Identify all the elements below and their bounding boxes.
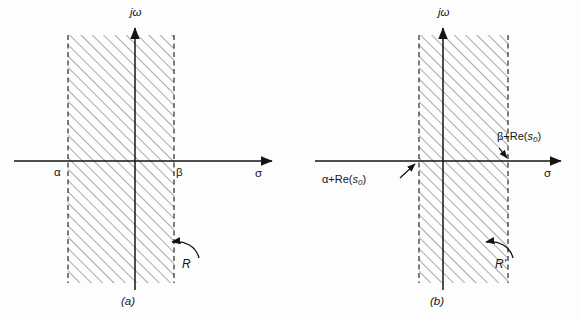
panel-b-caption: (b) [430, 296, 444, 308]
figure-root: jω σ α β R (a) jω σ α+Re(s0) β+Re(s0) R'… [0, 0, 579, 321]
region-b-hatch-fill [419, 35, 508, 283]
alpha-re-suffix: ) [362, 173, 366, 185]
region-a-hatch-fill [68, 35, 174, 283]
panel-b-beta-re-s0-label: β+Re(s0) [497, 131, 541, 144]
panel-b [315, 28, 561, 290]
region-a-pointer-arrow [172, 242, 199, 258]
panel-a-sigma-axis-label: σ [255, 168, 262, 180]
region-a-label-R: R [182, 258, 191, 270]
panel-a-beta-label: β [176, 167, 183, 179]
panel-b-sigma-axis-label: σ [544, 168, 551, 180]
beta-re-prefix: β+Re( [497, 130, 527, 142]
panel-a [14, 28, 272, 290]
panel-a-jomega-axis-label: jω [130, 7, 142, 19]
alpha-re-leader-line [400, 164, 415, 178]
panel-a-caption: (a) [121, 296, 135, 308]
beta-re-suffix: ) [537, 130, 541, 142]
panel-b-jomega-axis-label: jω [438, 7, 450, 19]
panel-a-alpha-label: α [54, 167, 61, 179]
panel-b-alpha-re-s0-label: α+Re(s0) [322, 174, 366, 187]
figure-canvas [0, 0, 579, 321]
alpha-re-prefix: α+Re( [322, 173, 353, 185]
region-b-label-R-prime: R' [495, 258, 506, 270]
